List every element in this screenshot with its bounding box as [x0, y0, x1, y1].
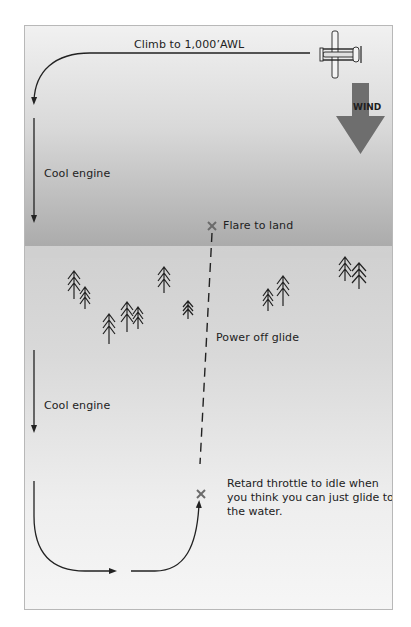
x-marker-icon: [208, 222, 216, 230]
climb-path-arrow: [34, 53, 310, 101]
tree-icon: [183, 301, 193, 319]
tree-icon: [121, 302, 133, 332]
tree-icon: [68, 271, 80, 299]
climb-label: Climb to 1,000’AWL: [134, 38, 244, 51]
base-turn-arrow: [34, 481, 113, 571]
wind-label: WIND: [353, 102, 381, 112]
diagram-frame: Climb to 1,000’AWL Cool engine Flare to …: [24, 25, 393, 610]
cool-engine-top-label: Cool engine: [44, 167, 110, 180]
tree-icon: [133, 307, 143, 329]
tree-icon: [339, 257, 351, 281]
cool-engine-bottom-label: Cool engine: [44, 399, 110, 412]
power-off-glide-label: Power off glide: [216, 331, 299, 344]
x-marker-icon: [197, 490, 205, 498]
retard-throttle-label: Retard throttle to idle when you think y…: [227, 477, 393, 519]
tree-icon: [103, 314, 115, 344]
shoreline: [25, 249, 393, 258]
tree-icon: [80, 287, 90, 309]
tree-icon: [277, 276, 289, 306]
tree-icon: [158, 267, 170, 293]
airplane-icon: [320, 31, 361, 78]
diagram-drawing: [25, 26, 393, 610]
tree-icon: [352, 263, 366, 289]
glide-path-dashed: [200, 233, 212, 464]
final-turn-arrow: [131, 504, 199, 571]
flare-label: Flare to land: [223, 219, 293, 232]
wind-arrow-icon: [336, 83, 385, 154]
tree-icon: [263, 289, 273, 311]
